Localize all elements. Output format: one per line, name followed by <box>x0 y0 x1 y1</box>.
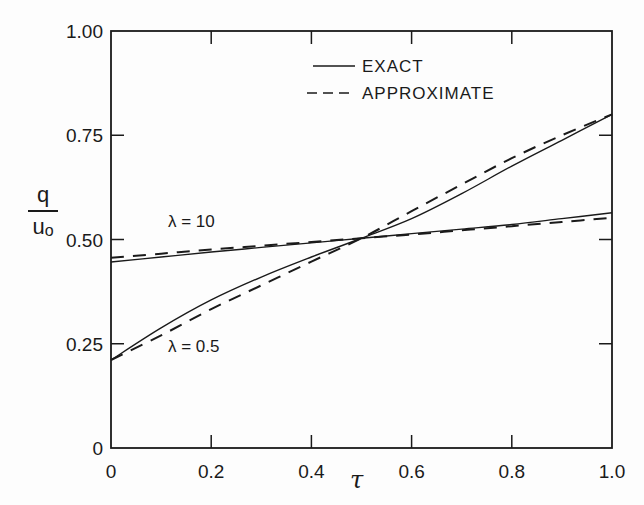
fraction-bar <box>28 210 58 212</box>
y-tick-label: 0.50 <box>66 230 103 251</box>
y-tick-label: 0.25 <box>66 334 103 355</box>
legend-label-approximate: APPROXIMATE <box>362 84 495 103</box>
x-tick-label: 0.8 <box>499 461 525 482</box>
y-axis-label-denominator: uo <box>28 216 58 239</box>
x-tick-label: 0.6 <box>398 461 424 482</box>
x-tick-label: 0.4 <box>298 461 325 482</box>
axis-tick-labels: 00.20.40.60.81.000.250.500.751.00 <box>66 21 625 482</box>
x-tick-label: 0.2 <box>198 461 224 482</box>
annotation-lambda-0-5: λ = 0.5 <box>168 337 220 356</box>
x-tick-label: 1.0 <box>599 461 625 482</box>
legend: EXACT APPROXIMATE <box>307 57 495 103</box>
y-tick-label: 0.75 <box>66 125 103 146</box>
annotation-lambda-10: λ = 10 <box>168 212 215 231</box>
y-tick-label: 1.00 <box>66 21 103 42</box>
x-axis-label: τ <box>350 466 363 494</box>
y-tick-label: 0 <box>92 438 103 459</box>
y-axis-label-numerator: q <box>28 184 58 210</box>
x-tick-label: 0 <box>106 461 117 482</box>
legend-label-exact: EXACT <box>362 57 424 76</box>
line-chart: 00.20.40.60.81.000.250.500.751.00 EXACT … <box>0 0 644 505</box>
series-line-2 <box>111 114 612 360</box>
series-line-3 <box>111 114 612 360</box>
y-axis-label: q uo <box>28 184 58 239</box>
data-series <box>111 114 612 360</box>
